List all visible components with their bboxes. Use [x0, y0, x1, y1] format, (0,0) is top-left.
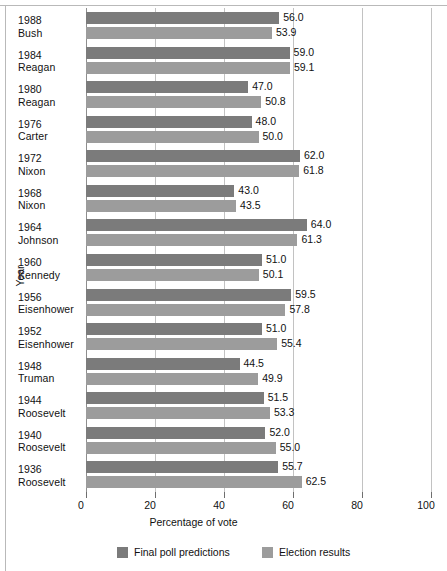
bar-value-label-prediction: 55.7: [282, 460, 302, 472]
bar-prediction[interactable]: [86, 392, 264, 404]
category-label: 1972Nixon: [18, 152, 82, 177]
category-president: Roosevelt: [18, 407, 82, 420]
category-president: Truman: [18, 372, 82, 385]
bar-value-label-result: 57.8: [289, 303, 309, 315]
category-president: Nixon: [18, 199, 82, 212]
x-tick-0: [86, 492, 87, 498]
x-tick-label: 0: [78, 499, 84, 511]
category-label: 1964Johnson: [18, 221, 82, 246]
bar-result[interactable]: [86, 27, 272, 39]
legend-item[interactable]: Election results: [262, 546, 350, 558]
category-label: 1980Reagan: [18, 83, 82, 108]
bar-value-label-result: 53.9: [276, 26, 296, 38]
page-top-rule: [0, 5, 447, 6]
bar-value-label-result: 61.3: [301, 233, 321, 245]
bar-result[interactable]: [86, 269, 259, 281]
category-label: 1984Reagan: [18, 49, 82, 74]
x-tick-label: 100: [417, 499, 435, 511]
category-year: 1940: [18, 429, 82, 442]
category-label: 1936Roosevelt: [18, 463, 82, 488]
bar-prediction[interactable]: [86, 81, 248, 93]
category-year: 1988: [18, 14, 82, 27]
bar-result[interactable]: [86, 338, 277, 350]
legend-label: Election results: [279, 546, 350, 558]
bar-prediction[interactable]: [86, 323, 262, 335]
category-president: Carter: [18, 130, 82, 143]
bar-result[interactable]: [86, 476, 302, 488]
category-year: 1972: [18, 152, 82, 165]
bar-value-label-prediction: 59.0: [294, 46, 314, 58]
category-president: Roosevelt: [18, 441, 82, 454]
bar-value-label-prediction: 43.0: [238, 184, 258, 196]
category-year: 1960: [18, 256, 82, 269]
bar-value-label-result: 55.0: [280, 441, 300, 453]
bar-prediction[interactable]: [86, 47, 290, 59]
bar-value-label-result: 62.5: [306, 475, 326, 487]
x-tick-40: [224, 492, 225, 498]
bar-value-label-prediction: 62.0: [304, 149, 324, 161]
category-label: 1960Kennedy: [18, 256, 82, 281]
bar-value-label-prediction: 48.0: [256, 115, 276, 127]
category-label: 1952Eisenhower: [18, 325, 82, 350]
bar-value-label-prediction: 47.0: [252, 80, 272, 92]
bar-result[interactable]: [86, 304, 285, 316]
category-president: Nixon: [18, 165, 82, 178]
bar-result[interactable]: [86, 62, 290, 74]
bar-result[interactable]: [86, 407, 270, 419]
legend-label: Final poll predictions: [134, 546, 230, 558]
bar-result[interactable]: [86, 200, 236, 212]
legend-item[interactable]: Final poll predictions: [117, 546, 230, 558]
category-year: 1968: [18, 187, 82, 200]
bar-value-label-prediction: 59.5: [295, 288, 315, 300]
bar-value-label-prediction: 51.0: [266, 322, 286, 334]
x-tick-20: [155, 492, 156, 498]
x-tick-label: 80: [351, 499, 363, 511]
x-tick-label: 40: [213, 499, 225, 511]
category-year: 1936: [18, 463, 82, 476]
x-tick-80: [362, 492, 363, 498]
category-year: 1956: [18, 291, 82, 304]
bar-value-label-result: 55.4: [281, 337, 301, 349]
bar-value-label-prediction: 52.0: [269, 426, 289, 438]
category-year: 1952: [18, 325, 82, 338]
legend-swatch-icon: [117, 547, 128, 558]
bar-prediction[interactable]: [86, 358, 240, 370]
bar-result[interactable]: [86, 442, 276, 454]
bar-prediction[interactable]: [86, 289, 291, 301]
bar-prediction[interactable]: [86, 219, 307, 231]
category-year: 1984: [18, 49, 82, 62]
category-president: Eisenhower: [18, 303, 82, 316]
category-year: 1964: [18, 221, 82, 234]
category-president: Roosevelt: [18, 476, 82, 489]
x-axis-title: Percentage of vote: [0, 516, 447, 528]
bar-prediction[interactable]: [86, 150, 300, 162]
bar-prediction[interactable]: [86, 185, 234, 197]
category-president: Kennedy: [18, 269, 82, 282]
x-tick-label: 20: [144, 499, 156, 511]
bar-value-label-prediction: 64.0: [311, 218, 331, 230]
bar-result[interactable]: [86, 96, 261, 108]
bar-prediction[interactable]: [86, 427, 265, 439]
bar-value-label-result: 49.9: [262, 372, 282, 384]
bar-prediction[interactable]: [86, 116, 252, 128]
bar-result[interactable]: [86, 234, 297, 246]
category-label: 1956Eisenhower: [18, 291, 82, 316]
bar-prediction[interactable]: [86, 12, 279, 24]
category-label: 1944Roosevelt: [18, 394, 82, 419]
bar-result[interactable]: [86, 131, 259, 143]
category-label: 1968Nixon: [18, 187, 82, 212]
category-label: 1976Carter: [18, 118, 82, 143]
bar-prediction[interactable]: [86, 254, 262, 266]
bar-value-label-prediction: 56.0: [283, 11, 303, 23]
bar-chart-figure: Year 1988Bush56.053.91984Reagan59.059.11…: [0, 0, 447, 571]
category-president: Johnson: [18, 234, 82, 247]
bar-prediction[interactable]: [86, 461, 278, 473]
bar-value-label-result: 50.8: [265, 95, 285, 107]
category-year: 1976: [18, 118, 82, 131]
chart-legend: Final poll predictionsElection results: [0, 546, 447, 566]
bar-result[interactable]: [86, 373, 258, 385]
category-year: 1980: [18, 83, 82, 96]
bar-result[interactable]: [86, 165, 299, 177]
category-president: Eisenhower: [18, 338, 82, 351]
x-axis-title-text: Percentage of vote: [149, 516, 237, 528]
